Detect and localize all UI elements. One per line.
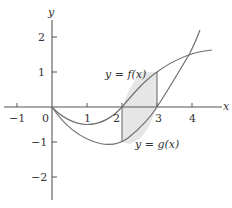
- x-axis-label: x: [223, 100, 230, 113]
- x-ticks: [17, 103, 192, 107]
- tick-origin: 0: [42, 112, 49, 125]
- f-label: y = f(x): [104, 68, 146, 81]
- tick-x-3: 3: [155, 112, 162, 125]
- tick-y-neg2: −2: [31, 171, 47, 184]
- tick-y-neg1: −1: [31, 136, 47, 149]
- tick-x-neg1: −1: [9, 112, 25, 125]
- g-label: y = g(x): [134, 138, 179, 151]
- y-axis-label: y: [47, 6, 55, 19]
- tick-x-1: 1: [84, 112, 91, 125]
- tick-x-4: 4: [189, 112, 196, 125]
- shaded-area: [122, 72, 157, 144]
- function-plot: x y −1 0 1 2 3 4 2 1 −1 −2 y = f(x) y = …: [0, 0, 232, 208]
- tick-x-2: 2: [113, 112, 120, 125]
- tick-y-2: 2: [38, 31, 45, 44]
- tick-y-1: 1: [38, 66, 45, 79]
